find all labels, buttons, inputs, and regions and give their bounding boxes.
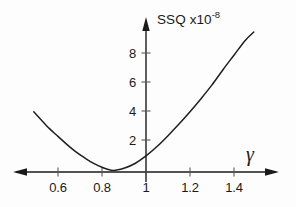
y-axis-top-arrow-icon [142, 17, 149, 31]
x-axis-title: γ [246, 143, 254, 166]
y-tick-label-8: 8 [116, 46, 136, 61]
x-tick-label-1.4: 1.4 [225, 180, 242, 195]
y-axis-title-text: SSQ x10 [157, 12, 212, 27]
y-tick-label-6: 6 [116, 75, 136, 90]
y-tick-label-2: 2 [116, 133, 136, 148]
x-tick-label-1.2: 1.2 [181, 180, 198, 195]
y-axis-title-exponent: -8 [212, 9, 220, 20]
x-axis-left-arrow-icon [13, 168, 27, 176]
ssq-vs-gamma-chart: 0.6 0.8 1 1.2 1.4 2 4 6 8 SSQ x10-8 γ [0, 0, 296, 207]
y-axis-title: SSQ x10-8 [157, 9, 220, 27]
x-tick-label-1: 1 [142, 180, 149, 195]
x-tick-label-0.8: 0.8 [93, 180, 110, 195]
x-axis-right-arrow-icon [265, 168, 279, 176]
plot-area [0, 0, 296, 207]
y-tick-label-4: 4 [116, 104, 136, 119]
x-tick-label-0.6: 0.6 [49, 180, 66, 195]
